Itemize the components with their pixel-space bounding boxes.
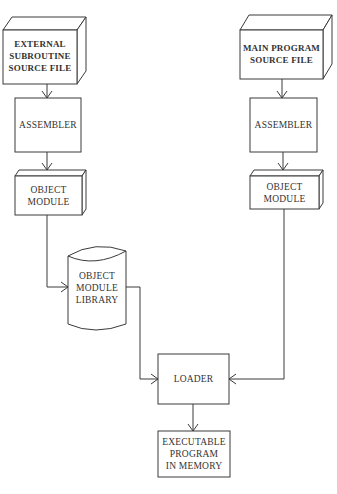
label-main-program-source-file: MAIN PROGRAM SOURCE FILE — [240, 42, 323, 66]
label-external-subroutine-source-file: EXTERNAL SUBROUTINE SOURCE FILE — [3, 38, 77, 74]
label-loader: LOADER — [158, 373, 229, 385]
label-object-module-right: OBJECT MODULE — [250, 181, 319, 205]
edge-objleft-to-library — [47, 215, 68, 287]
label-object-module-library: OBJECT MODULE LIBRARY — [68, 270, 126, 306]
label-executable-program-in-memory: EXECUTABLE PROGRAM IN MEMORY — [158, 436, 230, 472]
label-assembler-right: ASSEMBLER — [250, 119, 317, 131]
label-object-module-left: OBJECT MODULE — [15, 184, 82, 208]
flowchart-canvas — [0, 0, 337, 494]
edge-objright-to-loader — [229, 209, 284, 379]
label-assembler-left: ASSEMBLER — [15, 119, 81, 131]
edge-library-to-loader — [126, 287, 158, 379]
